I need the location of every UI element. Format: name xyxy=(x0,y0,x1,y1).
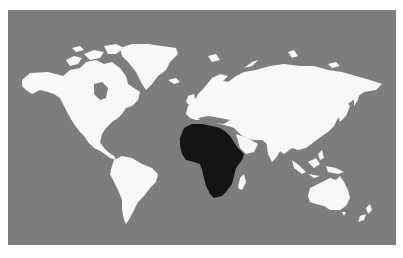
region-north-america xyxy=(22,60,140,160)
region-new-zealand xyxy=(358,204,372,222)
region-arctic-eurasia-islands xyxy=(208,50,340,68)
region-greenland xyxy=(120,44,178,90)
region-kamchatka xyxy=(354,90,360,106)
region-australia xyxy=(308,176,350,210)
region-africa xyxy=(180,124,244,198)
region-iceland xyxy=(168,78,180,84)
world-map xyxy=(8,10,396,245)
region-southeast-asia-islands xyxy=(292,150,344,178)
region-tasmania xyxy=(342,212,346,216)
region-south-america xyxy=(110,156,158,224)
region-madagascar xyxy=(238,174,246,190)
